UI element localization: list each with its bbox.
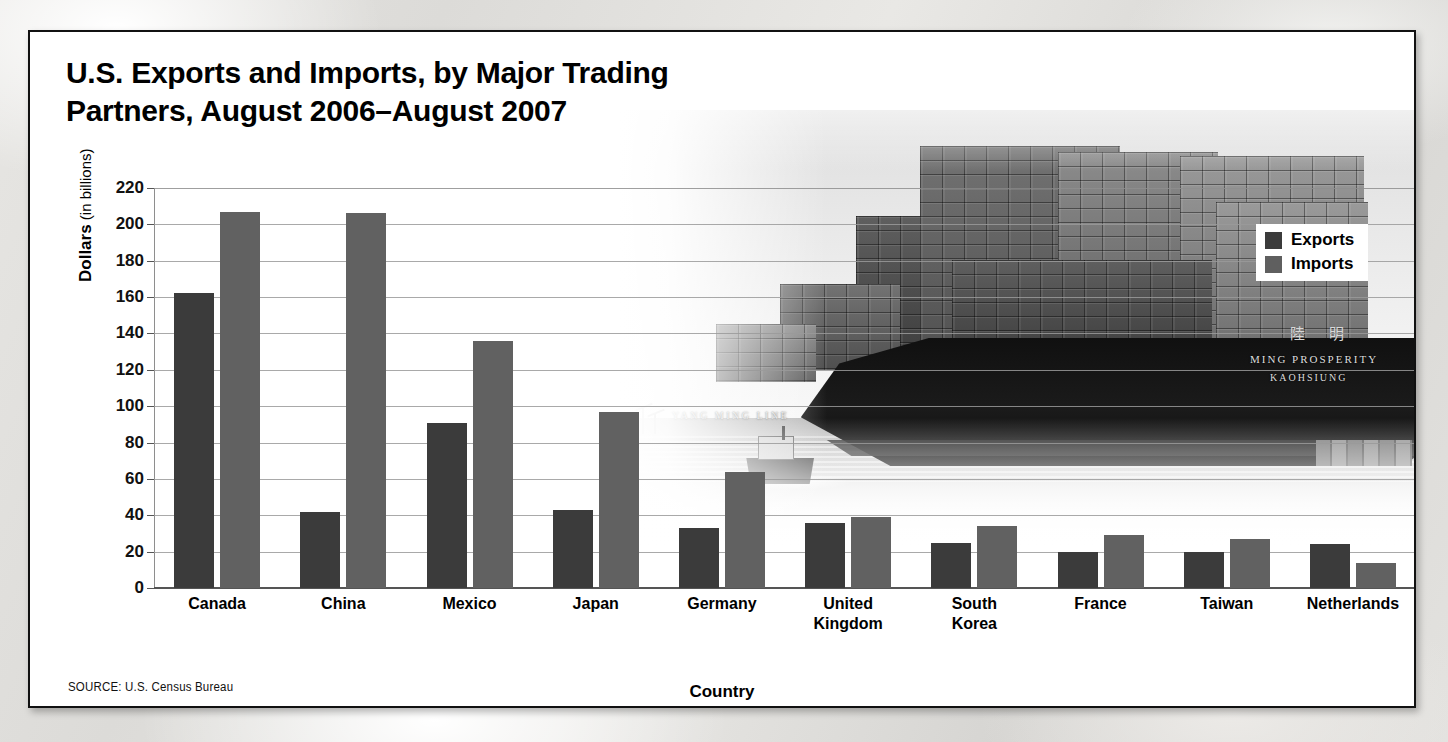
- bar-imports-united-kingdom[interactable]: [851, 517, 891, 588]
- bar-exports-china[interactable]: [300, 512, 340, 588]
- y-axis-tick-0: 0: [84, 578, 144, 598]
- y-axis-tickmark-200: [147, 224, 154, 225]
- y-axis-tick-100: 100: [84, 396, 144, 416]
- x-axis-label-line: Mexico: [406, 594, 532, 614]
- x-axis-label-line: Canada: [154, 594, 280, 614]
- bar-group-canada: [154, 188, 280, 588]
- y-axis-tick-80: 80: [84, 433, 144, 453]
- x-axis-label-line: France: [1037, 594, 1163, 614]
- bar-exports-canada[interactable]: [174, 293, 214, 588]
- x-axis-label-line: Netherlands: [1290, 594, 1416, 614]
- source-note: SOURCE: U.S. Census Bureau: [68, 680, 233, 694]
- x-axis-label-canada: Canada: [154, 594, 280, 634]
- bar-exports-mexico[interactable]: [427, 423, 467, 588]
- x-axis-title: Country: [30, 682, 1414, 702]
- legend-swatch-imports: [1265, 256, 1282, 273]
- bar-group-united-kingdom: [785, 188, 911, 588]
- y-axis-tickmark-100: [147, 406, 154, 407]
- y-axis-tickmark-120: [147, 370, 154, 371]
- bar-imports-china[interactable]: [346, 213, 386, 588]
- x-axis-label-mexico: Mexico: [406, 594, 532, 634]
- bar-group-germany: [659, 188, 785, 588]
- x-axis-label-line: China: [280, 594, 406, 614]
- y-axis-tick-40: 40: [84, 505, 144, 525]
- y-axis-tick-180: 180: [84, 251, 144, 271]
- y-axis-tickmark-60: [147, 479, 154, 480]
- x-axis-label-china: China: [280, 594, 406, 634]
- bar-groups: [154, 188, 1416, 588]
- legend-label-exports: Exports: [1291, 230, 1354, 250]
- y-axis-tickmark-160: [147, 297, 154, 298]
- chart-legend: ExportsImports: [1256, 224, 1368, 281]
- bar-imports-mexico[interactable]: [473, 341, 513, 588]
- bar-exports-france[interactable]: [1058, 552, 1098, 588]
- bar-exports-united-kingdom[interactable]: [805, 523, 845, 588]
- bar-exports-japan[interactable]: [553, 510, 593, 588]
- legend-item-imports[interactable]: Imports: [1265, 254, 1354, 274]
- bar-chart: Dollars (in billions) 220200180160140120…: [30, 32, 1414, 706]
- x-axis-label-france: France: [1037, 594, 1163, 634]
- x-axis-label-line: Japan: [533, 594, 659, 614]
- bar-imports-netherlands[interactable]: [1356, 563, 1396, 588]
- x-axis-label-united-kingdom: UnitedKingdom: [785, 594, 911, 634]
- y-axis-tick-140: 140: [84, 323, 144, 343]
- y-axis-tick-120: 120: [84, 360, 144, 380]
- x-axis-label-line: Germany: [659, 594, 785, 614]
- y-axis-tickmark-0: [147, 588, 154, 589]
- y-axis-tickmark-140: [147, 333, 154, 334]
- x-axis-label-south-korea: SouthKorea: [911, 594, 1037, 634]
- x-axis-label-line: Kingdom: [785, 614, 911, 634]
- bar-imports-south-korea[interactable]: [977, 526, 1017, 588]
- bar-group-china: [280, 188, 406, 588]
- x-axis-label-japan: Japan: [533, 594, 659, 634]
- legend-swatch-exports: [1265, 232, 1282, 249]
- x-axis-label-line: South: [911, 594, 1037, 614]
- x-axis-label-line: Taiwan: [1164, 594, 1290, 614]
- x-axis-label-taiwan: Taiwan: [1164, 594, 1290, 634]
- y-axis-tickmark-180: [147, 261, 154, 262]
- bar-imports-canada[interactable]: [220, 212, 260, 588]
- bar-imports-france[interactable]: [1104, 535, 1144, 588]
- bar-group-mexico: [406, 188, 532, 588]
- bar-exports-taiwan[interactable]: [1184, 552, 1224, 588]
- bar-imports-japan[interactable]: [599, 412, 639, 588]
- legend-label-imports: Imports: [1291, 254, 1353, 274]
- bar-group-japan: [533, 188, 659, 588]
- x-axis-label-line: Korea: [911, 614, 1037, 634]
- bar-exports-germany[interactable]: [679, 528, 719, 588]
- y-axis-tickmark-80: [147, 443, 154, 444]
- x-axis-label-netherlands: Netherlands: [1290, 594, 1416, 634]
- bar-group-south-korea: [911, 188, 1037, 588]
- y-axis-tick-160: 160: [84, 287, 144, 307]
- plot-right-border: [1415, 188, 1416, 588]
- plot-area: 220200180160140120100806040200: [154, 188, 1416, 588]
- bar-imports-germany[interactable]: [725, 472, 765, 588]
- legend-item-exports[interactable]: Exports: [1265, 230, 1354, 250]
- x-axis-label-germany: Germany: [659, 594, 785, 634]
- y-axis-tick-200: 200: [84, 214, 144, 234]
- y-axis-tick-20: 20: [84, 542, 144, 562]
- x-axis-label-line: United: [785, 594, 911, 614]
- y-axis-tickmark-220: [147, 188, 154, 189]
- bar-imports-taiwan[interactable]: [1230, 539, 1270, 588]
- y-axis-tickmark-40: [147, 515, 154, 516]
- y-axis-tick-220: 220: [84, 178, 144, 198]
- bar-group-france: [1037, 188, 1163, 588]
- y-axis-tickmark-20: [147, 552, 154, 553]
- figure-panel: U.S. Exports and Imports, by Major Tradi…: [28, 30, 1416, 708]
- x-axis-labels: CanadaChinaMexicoJapanGermanyUnitedKingd…: [154, 594, 1416, 634]
- bar-exports-netherlands[interactable]: [1310, 544, 1350, 588]
- bar-exports-south-korea[interactable]: [931, 543, 971, 588]
- y-axis-tick-60: 60: [84, 469, 144, 489]
